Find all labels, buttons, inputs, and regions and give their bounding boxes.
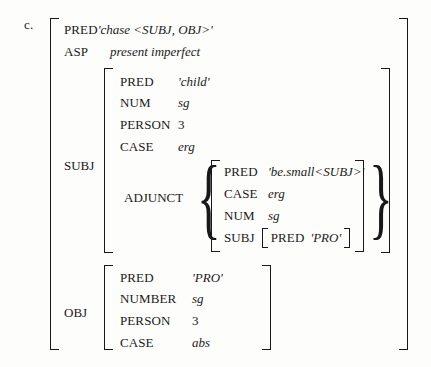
adjunct-row-num: NUM sg bbox=[224, 208, 280, 224]
attribute-name: PERSON bbox=[120, 117, 178, 133]
adjunct-set-close-brace: } bbox=[369, 153, 393, 243]
attribute-name: SUBJ bbox=[224, 230, 255, 246]
adjunct-row-subj: SUBJ PRED 'PRO' bbox=[224, 230, 350, 246]
subj-row-person: PERSON 3 bbox=[120, 117, 185, 133]
attribute-value: 'PRO' bbox=[192, 270, 223, 286]
obj-bracket-left bbox=[104, 265, 113, 350]
attribute-name: PRED bbox=[64, 22, 98, 38]
adjunct-row-case: CASE erg bbox=[224, 186, 285, 202]
attribute-name: PRED bbox=[120, 74, 178, 90]
outer-bracket-left bbox=[50, 18, 59, 350]
attribute-name: CASE bbox=[120, 139, 178, 155]
attribute-name: PERSON bbox=[120, 313, 192, 329]
adjunct-row-pred: PRED 'be.small<SUBJ>' bbox=[224, 164, 364, 180]
obj-bracket-right bbox=[262, 265, 271, 350]
obj-row-person: PERSON 3 bbox=[120, 313, 199, 329]
attribute-value: erg bbox=[268, 186, 285, 202]
obj-row-pred: PRED 'PRO' bbox=[120, 270, 223, 286]
subj-label: SUBJ bbox=[64, 158, 94, 174]
attribute-value: abs bbox=[192, 335, 210, 351]
attribute-value: 'be.small<SUBJ>' bbox=[268, 164, 364, 180]
adjunct-subj-structure: PRED 'PRO' bbox=[262, 230, 350, 246]
f-structure-figure: c. PRED 'chase <SUBJ, OBJ>' ASP present … bbox=[0, 0, 431, 367]
outer-bracket-right bbox=[399, 18, 408, 350]
attribute-value: erg bbox=[178, 139, 195, 155]
attribute-value: 'PRO' bbox=[310, 230, 341, 246]
attribute-value: 'child' bbox=[178, 74, 210, 90]
subj-row-pred: PRED 'child' bbox=[120, 74, 210, 90]
attribute-name: NUM bbox=[224, 208, 268, 224]
outer-row-asp: ASP present imperfect bbox=[64, 44, 200, 60]
adjunct-label: ADJUNCT bbox=[124, 190, 183, 206]
attribute-name: PRED bbox=[224, 164, 268, 180]
obj-label: OBJ bbox=[64, 305, 87, 321]
attribute-name: NUM bbox=[120, 95, 178, 111]
attribute-name: CASE bbox=[224, 186, 268, 202]
attribute-value: 3 bbox=[192, 313, 199, 329]
attribute-name: ASP bbox=[64, 44, 110, 60]
attribute-name: PRED bbox=[120, 270, 192, 286]
outer-row-pred: PRED 'chase <SUBJ, OBJ>' bbox=[64, 22, 213, 38]
attribute-value: sg bbox=[192, 291, 204, 307]
obj-row-case: CASE abs bbox=[120, 335, 210, 351]
attribute-value: 3 bbox=[178, 117, 185, 133]
subj-bracket-left bbox=[104, 68, 113, 253]
subj-row-num: NUM sg bbox=[120, 95, 190, 111]
adjunct-bracket-left bbox=[211, 160, 220, 252]
subj-row-case: CASE erg bbox=[120, 139, 195, 155]
attribute-name: NUMBER bbox=[120, 291, 192, 307]
obj-row-number: NUMBER sg bbox=[120, 291, 204, 307]
attribute-name: CASE bbox=[120, 335, 192, 351]
attribute-value: sg bbox=[268, 208, 280, 224]
attribute-value: sg bbox=[178, 95, 190, 111]
example-label: c. bbox=[24, 17, 33, 33]
attribute-value: 'chase <SUBJ, OBJ>' bbox=[98, 22, 213, 38]
attribute-value: present imperfect bbox=[110, 44, 200, 60]
attribute-name: PRED bbox=[271, 230, 305, 246]
